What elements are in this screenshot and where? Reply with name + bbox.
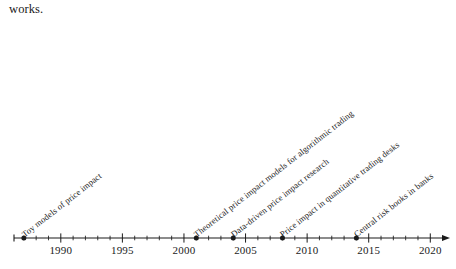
page-root: works. 1990199520002005201020152020 Toy …	[0, 0, 456, 269]
axis-year-label-2015: 2015	[357, 244, 380, 256]
axis-year-label-2000: 2000	[173, 244, 196, 256]
axis-year-label-2005: 2005	[234, 244, 257, 256]
body-paragraph: works.	[9, 1, 43, 17]
axis-arrow-icon	[442, 235, 450, 241]
axis-year-label-2010: 2010	[296, 244, 319, 256]
axis-year-label-2020: 2020	[419, 244, 442, 256]
timeline-figure: 1990199520002005201020152020 Toy models …	[0, 30, 456, 269]
axis-year-label-1995: 1995	[111, 244, 134, 256]
axis-year-label-1990: 1990	[49, 244, 72, 256]
